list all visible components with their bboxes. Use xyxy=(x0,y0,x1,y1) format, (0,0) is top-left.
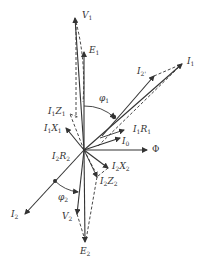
i2x2-phasor xyxy=(84,150,108,168)
label-e1: E1 xyxy=(89,46,99,56)
phi2-arc xyxy=(55,181,78,192)
label-i2: I2 xyxy=(11,210,18,220)
label-v1: V1 xyxy=(82,11,92,21)
v2-phasor xyxy=(77,150,84,214)
label-i1x1: I1X1 xyxy=(44,124,62,134)
label-phi1: φ1 xyxy=(99,94,109,104)
e2-phasor xyxy=(84,150,85,242)
label-i2r2: I2R2 xyxy=(52,152,70,162)
label-i1z1: I1Z1 xyxy=(48,107,65,117)
label-v2: V2 xyxy=(62,212,72,222)
label-i1: I1 xyxy=(187,57,194,67)
phasor-diagram: V1 E1 I1 I2' φ1 I1Z1 I1X1 I1R1 I0 Φ I2R2… xyxy=(0,0,203,268)
phasor-lines xyxy=(0,0,203,268)
label-i2z2: I2Z2 xyxy=(100,177,117,187)
label-i0: I0 xyxy=(122,137,129,147)
label-phi2: φ2 xyxy=(58,193,68,203)
label-flux: Φ xyxy=(152,145,159,154)
label-e2: E2 xyxy=(80,247,90,257)
label-i2x2: I2X2 xyxy=(112,162,130,172)
i2z2-phasor xyxy=(84,150,97,177)
i0-phasor xyxy=(84,138,120,150)
phi1-arc xyxy=(84,106,115,118)
i1x1-phasor xyxy=(66,128,84,150)
label-i1r1: I1R1 xyxy=(133,125,151,135)
i1-phasor xyxy=(84,64,182,150)
label-i2-prime: I2' xyxy=(137,67,146,77)
